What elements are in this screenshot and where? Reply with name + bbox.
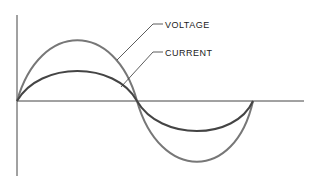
current-label: CURRENT (165, 48, 213, 58)
voltage-label: VOLTAGE (165, 20, 210, 30)
current-leader-line (121, 52, 163, 87)
voltage-leader-line (117, 24, 163, 60)
voltage-current-diagram: VOLTAGE CURRENT (0, 0, 321, 185)
